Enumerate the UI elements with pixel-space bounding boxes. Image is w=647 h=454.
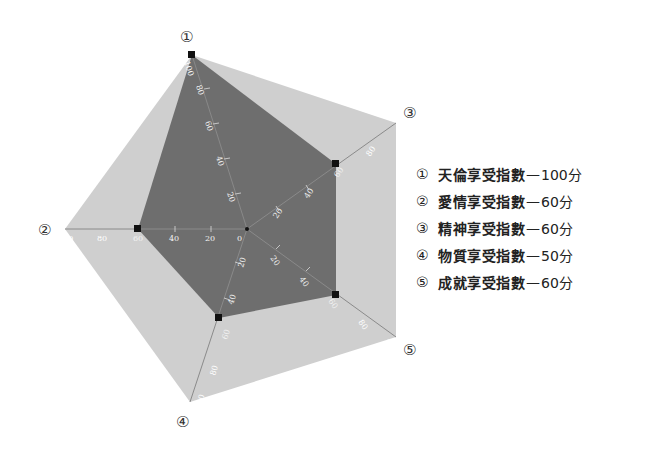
svg-text:20: 20 xyxy=(205,234,215,243)
legend-separator: — xyxy=(526,220,540,236)
center-point xyxy=(245,227,249,231)
axis-2-label: ② xyxy=(38,221,51,239)
chart-legend: ① 天倫享受指數 — 100分 ② 愛情享受指數 — 60分 ③ 精神享受指數 … xyxy=(416,160,582,295)
marker-axis-2 xyxy=(134,225,141,232)
axis-3-label: ③ xyxy=(403,104,416,122)
svg-text:0: 0 xyxy=(237,234,242,243)
legend-score: 50分 xyxy=(541,245,573,265)
legend-item: ④ 物質享受指數 — 50分 xyxy=(416,241,582,268)
axis-1-label: ① xyxy=(180,28,193,46)
legend-separator: — xyxy=(526,247,540,263)
legend-item: ③ 精神享受指數 — 60分 xyxy=(416,214,582,241)
marker-axis-1 xyxy=(188,51,195,58)
legend-label: 成就享受指數 xyxy=(438,272,525,292)
legend-item: ⑤ 成就享受指數 — 60分 xyxy=(416,268,582,295)
legend-separator: — xyxy=(526,166,540,182)
radar-chart: 100 80 60 40 20 0 20 40 60 80 100 20 40 … xyxy=(0,0,420,454)
legend-score: 60分 xyxy=(541,218,573,238)
legend-marker: ① xyxy=(416,166,438,182)
legend-marker: ③ xyxy=(416,220,438,236)
svg-text:100: 100 xyxy=(58,234,73,243)
legend-label: 天倫享受指數 xyxy=(438,164,525,184)
svg-text:100: 100 xyxy=(383,337,401,353)
legend-score: 60分 xyxy=(541,272,573,292)
legend-score: 100分 xyxy=(541,164,582,184)
legend-label: 精神享受指數 xyxy=(438,218,525,238)
legend-score: 60分 xyxy=(541,191,573,211)
legend-item: ② 愛情享受指數 — 60分 xyxy=(416,187,582,214)
marker-axis-3 xyxy=(332,160,339,167)
axis-5-label: ⑤ xyxy=(403,341,416,359)
legend-item: ① 天倫享受指數 — 100分 xyxy=(416,160,582,187)
legend-separator: — xyxy=(526,274,540,290)
svg-text:80: 80 xyxy=(97,234,107,243)
marker-axis-4 xyxy=(215,314,222,321)
legend-label: 愛情享受指數 xyxy=(438,191,525,211)
svg-text:60: 60 xyxy=(133,234,143,243)
marker-axis-5 xyxy=(332,291,339,298)
legend-marker: ② xyxy=(416,193,438,209)
legend-marker: ④ xyxy=(416,247,438,263)
svg-text:40: 40 xyxy=(169,234,179,243)
axis-4-label: ④ xyxy=(176,413,189,431)
legend-separator: — xyxy=(526,193,540,209)
legend-label: 物質享受指數 xyxy=(438,245,525,265)
legend-marker: ⑤ xyxy=(416,274,438,290)
